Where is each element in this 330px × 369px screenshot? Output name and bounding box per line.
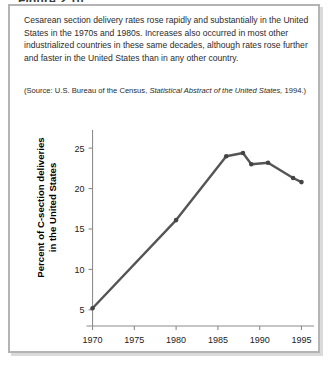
data-point bbox=[266, 160, 271, 165]
data-point bbox=[90, 306, 95, 311]
x-axis-tick-label: 1980 bbox=[166, 335, 186, 345]
source-prefix: (Source: bbox=[24, 86, 53, 95]
data-point bbox=[291, 176, 296, 181]
figure-root: Figure 2.10 Cesarean section delivery ra… bbox=[0, 0, 330, 369]
y-axis-tick-label: 20 bbox=[75, 184, 85, 194]
y-axis-tick-label: 5 bbox=[80, 305, 85, 315]
data-point bbox=[174, 218, 179, 223]
x-axis-tick-label: 1995 bbox=[291, 335, 311, 345]
x-axis-tick-label: 1990 bbox=[250, 335, 270, 345]
figure-caption: Cesarean section delivery rates rose rap… bbox=[24, 14, 310, 64]
source-suffix: 1994.) bbox=[282, 86, 306, 95]
y-axis-tick-label: 25 bbox=[75, 144, 85, 154]
x-axis-tick-label: 1975 bbox=[124, 335, 144, 345]
figure-title: Figure 2.10 bbox=[18, 0, 84, 2]
y-axis-tick-label: 10 bbox=[75, 265, 85, 275]
x-axis-tick-label: 1970 bbox=[83, 335, 103, 345]
series-line bbox=[93, 153, 302, 308]
data-point bbox=[299, 180, 304, 185]
source-text: U.S. Bureau of the Census, bbox=[53, 86, 150, 95]
y-axis-tick-label: 15 bbox=[75, 224, 85, 234]
x-axis-tick-label: 1985 bbox=[208, 335, 228, 345]
figure-source: (Source: U.S. Bureau of the Census, Stat… bbox=[24, 86, 312, 97]
data-point bbox=[224, 154, 229, 159]
data-point bbox=[241, 151, 246, 156]
figure-card: Cesarean section delivery rates rose rap… bbox=[8, 4, 320, 353]
y-axis-label: Percent of C-section deliveries in the U… bbox=[35, 128, 58, 288]
source-italic-work: Statistical Abstract of the United State… bbox=[149, 86, 282, 95]
line-chart: Percent of C-section deliveries in the U… bbox=[10, 118, 322, 350]
data-point bbox=[249, 162, 254, 167]
